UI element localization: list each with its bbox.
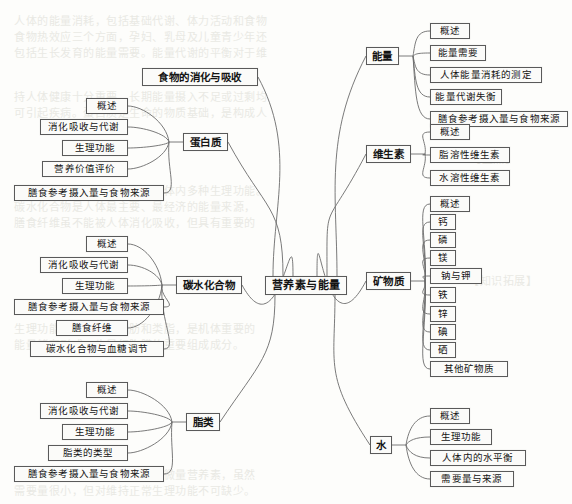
connector (128, 244, 162, 285)
leaf-node[interactable]: 磷 (430, 232, 456, 248)
leaf-node[interactable]: 营养价值评价 (42, 161, 128, 177)
branch-node-left-2[interactable]: 碳水化合物 (176, 276, 242, 294)
leaf-node[interactable]: 脂类的类型 (48, 445, 128, 461)
leaf-node[interactable]: 概述 (86, 382, 128, 398)
branch-node-left-3[interactable]: 脂类 (186, 413, 220, 431)
connector (423, 132, 430, 154)
leaf-node[interactable]: 需要量与来源 (430, 471, 514, 487)
connector (128, 142, 169, 169)
branch-node-right-0[interactable]: 能量 (366, 47, 399, 65)
leaf-node[interactable]: 膳食参考摄入量与食物来源 (14, 185, 164, 201)
branch-node-right-2[interactable]: 矿物质 (366, 272, 411, 290)
connector (128, 285, 162, 286)
connector (228, 142, 283, 276)
connector (220, 295, 275, 422)
leaf-node[interactable]: 生理功能 (62, 424, 128, 440)
branch-node-left-1[interactable]: 蛋白质 (183, 133, 228, 151)
connector (164, 142, 171, 193)
connector (162, 285, 170, 349)
leaf-node[interactable]: 消化吸收与代谢 (40, 257, 128, 273)
connector (334, 295, 370, 445)
leaf-node[interactable]: 概述 (430, 196, 470, 212)
leaf-node[interactable]: 能量需要 (430, 45, 486, 61)
connector (423, 154, 430, 178)
connector (128, 142, 169, 148)
connector (406, 445, 430, 458)
leaf-node[interactable]: 能量代谢失衡 (430, 89, 502, 105)
connector (128, 422, 172, 432)
leaf-node[interactable]: 脂溶性维生素 (430, 147, 510, 163)
connector (423, 222, 430, 281)
connector (423, 258, 430, 281)
leaf-node[interactable]: 概述 (430, 408, 470, 424)
leaf-node[interactable]: 铁 (430, 287, 456, 303)
connector (413, 56, 430, 75)
leaf-node[interactable]: 消化吸收与代谢 (40, 403, 128, 419)
leaf-node[interactable]: 概述 (430, 124, 470, 140)
leaf-node[interactable]: 其他矿物质 (430, 361, 508, 377)
leaf-node[interactable]: 概述 (86, 98, 128, 114)
connector (335, 56, 366, 276)
leaf-node[interactable]: 镁 (430, 250, 456, 266)
leaf-node[interactable]: 概述 (86, 236, 128, 252)
leaf-node[interactable]: 概述 (430, 23, 470, 39)
leaf-node[interactable]: 膳食参考摄入量与食物来源 (14, 466, 164, 482)
connector (327, 154, 366, 276)
leaf-node[interactable]: 钠与钾 (430, 268, 482, 284)
leaf-node[interactable]: 消化吸收与代谢 (40, 119, 128, 135)
center-node[interactable]: 营养素与能量 (265, 276, 347, 295)
leaf-node[interactable]: 人体能量消耗的测定 (430, 67, 542, 83)
leaf-node[interactable]: 人体内的水平衡 (430, 450, 526, 466)
connector (423, 281, 430, 350)
leaf-node[interactable]: 锌 (430, 306, 456, 322)
connector (413, 31, 430, 56)
leaf-node[interactable]: 碳水化合物与血糖调节 (30, 341, 164, 357)
branch-node-right-1[interactable]: 维生素 (366, 145, 411, 163)
leaf-node[interactable]: 生理功能 (430, 429, 492, 445)
connector (258, 77, 280, 276)
branch-node-left-0[interactable]: 食物的消化与吸收 (142, 68, 258, 86)
leaf-node[interactable]: 硒 (430, 342, 456, 358)
leaf-node[interactable]: 生理功能 (62, 140, 128, 156)
leaf-node[interactable]: 膳食参考摄入量与食物来源 (14, 299, 164, 315)
connector (423, 281, 430, 295)
connector (406, 445, 430, 479)
branch-node-right-3[interactable]: 水 (370, 436, 392, 454)
connector (423, 154, 430, 155)
leaf-node[interactable]: 生理功能 (62, 278, 128, 294)
leaf-node[interactable]: 膳食纤维 (56, 320, 128, 336)
connector (413, 53, 430, 56)
connector (164, 422, 173, 474)
leaf-node[interactable]: 钙 (430, 214, 456, 230)
connector (406, 437, 430, 445)
connector (128, 127, 169, 142)
connector (128, 106, 169, 142)
connector (128, 411, 172, 422)
mindmap-canvas: 人体的能量消耗，包括基础代谢、体力活动和食物食物热效应三个方面，孕妇、乳母及儿童… (0, 0, 572, 504)
leaf-node[interactable]: 碘 (430, 324, 456, 340)
connector (423, 276, 430, 281)
leaf-node[interactable]: 水溶性维生素 (430, 170, 510, 186)
